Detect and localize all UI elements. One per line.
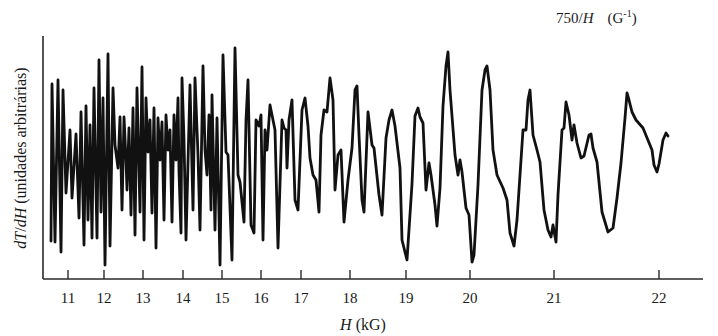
x-tick-label: 22 <box>652 290 667 306</box>
x-tick-label: 12 <box>97 290 112 306</box>
x-axis-ticks <box>68 270 659 279</box>
x-axis-label: H (kG) <box>339 316 386 334</box>
x-tick-label: 20 <box>463 290 478 306</box>
top-axis-label: 750/H(G-1) <box>556 8 637 27</box>
x-tick-label: 15 <box>215 290 230 306</box>
chart-canvas: 750/H(G-1) dT/dH (unidades arbitrárias) … <box>0 0 718 336</box>
x-tick-label: 17 <box>294 290 310 306</box>
x-tick-label: 14 <box>176 290 192 306</box>
oscillation-trace <box>51 48 668 265</box>
y-axis-label: dT/dH (unidades arbitrárias) <box>12 67 30 248</box>
x-tick-label: 21 <box>547 290 562 306</box>
x-tick-label: 13 <box>136 290 151 306</box>
x-tick-label: 16 <box>254 290 270 306</box>
x-tick-label: 18 <box>343 290 358 306</box>
x-tick-label: 11 <box>61 290 75 306</box>
x-axis-tick-labels: 111213141516171819202122 <box>61 290 667 306</box>
x-tick-label: 19 <box>399 290 414 306</box>
